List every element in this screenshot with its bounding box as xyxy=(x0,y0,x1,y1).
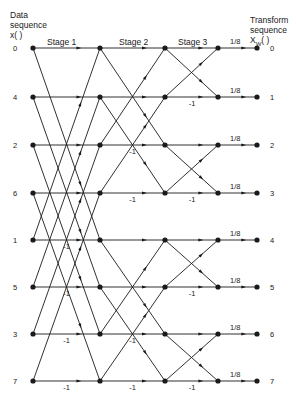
node-dot xyxy=(30,237,35,242)
arrow-icon xyxy=(241,144,246,147)
node-dot xyxy=(254,284,259,289)
scale-label: 1/8 xyxy=(230,370,240,379)
multiplier-label: -1 xyxy=(63,242,70,251)
multiplier-label: -1 xyxy=(189,99,196,108)
node-dot xyxy=(215,331,220,336)
input-index: 2 xyxy=(13,141,17,150)
node-dot xyxy=(215,284,220,289)
arrow-icon xyxy=(78,276,81,281)
output-index: 1 xyxy=(270,93,274,102)
output-index: 3 xyxy=(270,189,274,198)
node-dot xyxy=(97,378,102,383)
multiplier-label: -1 xyxy=(129,336,136,345)
scale-label: 1/8 xyxy=(230,229,240,238)
input-index: 3 xyxy=(13,330,17,339)
arrow-icon xyxy=(143,75,147,80)
node-dot xyxy=(215,378,220,383)
output-index: 5 xyxy=(270,283,274,292)
node-dot xyxy=(254,142,259,147)
multiplier-label: -1 xyxy=(189,383,196,392)
multiplier-label: -1 xyxy=(189,289,196,298)
output-index: 0 xyxy=(270,44,274,53)
node-dot xyxy=(30,45,35,50)
arrow-icon xyxy=(76,333,81,336)
node-dot xyxy=(162,45,167,50)
multiplier-label: -1 xyxy=(63,383,70,392)
arrow-icon xyxy=(241,286,246,289)
node-dot xyxy=(30,94,35,99)
node-dot xyxy=(215,190,220,195)
node-dot xyxy=(97,190,102,195)
multiplier-label: -1 xyxy=(129,147,136,156)
arrow-icon xyxy=(76,239,81,242)
multiplier-label: -1 xyxy=(189,195,196,204)
arrow-icon xyxy=(142,333,147,336)
arrow-icon xyxy=(241,380,246,383)
arrow-icon xyxy=(241,333,246,336)
arrow-icon xyxy=(241,47,246,50)
arrow-icon xyxy=(76,192,81,195)
scale-label: 1/8 xyxy=(230,134,240,143)
input-index: 1 xyxy=(13,236,17,245)
node-dot xyxy=(97,331,102,336)
node-dot xyxy=(254,190,259,195)
node-dot xyxy=(254,94,259,99)
multiplier-label: -1 xyxy=(129,195,136,204)
node-dot xyxy=(97,237,102,242)
node-dot xyxy=(162,142,167,147)
arrow-icon xyxy=(78,229,81,234)
arrow-icon xyxy=(198,333,203,336)
arrow-icon xyxy=(78,102,81,107)
node-dot xyxy=(97,94,102,99)
node-dot xyxy=(162,331,167,336)
node-dot xyxy=(30,190,35,195)
output-index: 6 xyxy=(270,330,274,339)
arrow-icon xyxy=(142,96,147,99)
arrow-icon xyxy=(78,181,81,186)
node-dot xyxy=(215,142,220,147)
scale-label: 1/8 xyxy=(230,37,240,46)
arrow-icon xyxy=(198,192,203,195)
input-index: 0 xyxy=(13,44,17,53)
node-dot xyxy=(97,284,102,289)
arrow-icon xyxy=(143,161,147,166)
scale-label: 1/8 xyxy=(230,323,240,332)
node-dot xyxy=(162,94,167,99)
node-dot xyxy=(30,331,35,336)
node-dot xyxy=(215,94,220,99)
output-index: 2 xyxy=(270,141,274,150)
multiplier-label: -1 xyxy=(129,383,136,392)
input-index: 4 xyxy=(13,93,17,102)
node-dot xyxy=(162,284,167,289)
arrow-icon xyxy=(143,124,147,129)
multiplier-label: -1 xyxy=(63,289,70,298)
arrow-icon xyxy=(198,144,203,147)
arrow-icon xyxy=(142,286,147,289)
node-dot xyxy=(30,378,35,383)
node-dot xyxy=(162,378,167,383)
arrow-icon xyxy=(198,380,203,383)
node-dot xyxy=(97,45,102,50)
arrow-icon xyxy=(78,246,81,251)
arrow-icon xyxy=(241,96,246,99)
node-dot xyxy=(254,45,259,50)
arrow-icon xyxy=(76,286,81,289)
output-index: 4 xyxy=(270,236,274,245)
input-index: 7 xyxy=(13,377,17,386)
scale-label: 1/8 xyxy=(230,276,240,285)
multiplier-label: -1 xyxy=(63,336,70,345)
arrow-icon xyxy=(142,144,147,147)
arrow-icon xyxy=(143,113,147,118)
scale-label: 1/8 xyxy=(230,86,240,95)
node-dot xyxy=(97,142,102,147)
arrow-icon xyxy=(142,380,147,383)
arrow-icon xyxy=(241,192,246,195)
node-dot xyxy=(30,284,35,289)
arrow-icon xyxy=(142,239,147,242)
fft-butterfly-diagram: -1-1-1-1-1-1-1-1-1-1-1-11/81/81/81/81/81… xyxy=(0,0,296,401)
arrow-icon xyxy=(76,47,81,50)
arrow-icon xyxy=(78,198,81,203)
node-dot xyxy=(30,142,35,147)
arrow-icon xyxy=(198,286,203,289)
arrow-icon xyxy=(142,47,147,50)
